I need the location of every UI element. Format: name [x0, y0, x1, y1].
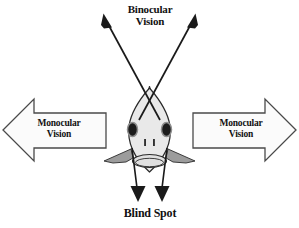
nostril-left	[144, 139, 146, 146]
pectoral-fin-right	[166, 149, 195, 163]
label-monocular-vision-right: Monocular Vision	[208, 118, 274, 139]
eye-left	[128, 123, 138, 137]
label-binocular-vision: Binocular Vision	[104, 3, 196, 28]
binocular-ray-left-line	[108, 24, 160, 120]
label-blind-spot: Blind Spot	[100, 207, 200, 220]
mouth-outer	[133, 155, 167, 168]
blind-spot-arrowhead-right	[155, 186, 170, 202]
diagram-canvas: Binocular Vision Monocular Vision Monocu…	[0, 0, 299, 228]
pectoral-fin-left	[104, 149, 133, 163]
eye-right	[162, 123, 172, 137]
binocular-ray-right-line	[139, 24, 191, 120]
fish-vision-diagram	[0, 0, 299, 228]
nostril-right	[153, 139, 155, 146]
label-monocular-vision-left: Monocular Vision	[26, 118, 92, 139]
blind-spot-arrowhead-left	[131, 186, 146, 202]
